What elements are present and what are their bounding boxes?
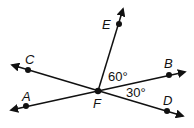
- label-b: B: [164, 56, 173, 71]
- label-e: E: [102, 17, 111, 32]
- label-a: A: [21, 89, 31, 104]
- angle-bfd-label: 30°: [126, 85, 146, 100]
- angle-efb-label: 60°: [108, 69, 128, 84]
- point-f: [95, 88, 101, 94]
- point-e: [116, 21, 122, 27]
- point-d: [164, 108, 170, 114]
- point-b: [166, 72, 172, 78]
- point-c: [25, 67, 31, 73]
- label-d: D: [163, 93, 172, 108]
- label-f: F: [93, 96, 102, 111]
- label-c: C: [25, 52, 35, 67]
- geometry-diagram: E C A F B D 60° 30°: [0, 0, 194, 128]
